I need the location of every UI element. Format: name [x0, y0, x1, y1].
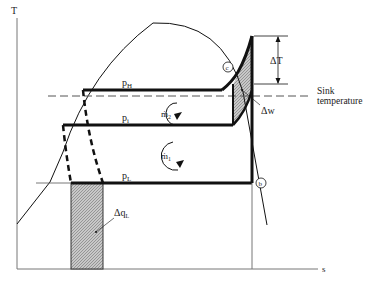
label-pl: pL: [122, 170, 131, 183]
sink-temperature-label-1: Sink: [317, 86, 335, 96]
delta-ql-area: [71, 183, 103, 269]
svg-text:b: b: [259, 180, 263, 188]
svg-text:Δw: Δw: [261, 105, 275, 116]
throttle-curve-2: [83, 90, 103, 183]
state-c-marker: c: [223, 62, 233, 72]
ts-diagram: T s pH pi pL ṁ2 ṁ1 c: [0, 0, 383, 284]
svg-text:ΔqL: ΔqL: [114, 207, 129, 219]
svg-text:c: c: [226, 64, 229, 72]
svg-text:ṁ2: ṁ2: [161, 109, 171, 120]
state-b-marker: b: [256, 178, 266, 188]
label-ph: pH: [122, 77, 132, 90]
label-pi: pi: [122, 112, 129, 125]
sink-temperature-label-2: temperature: [317, 96, 362, 106]
svg-text:ṁ1: ṁ1: [161, 151, 171, 162]
svg-text:ΔT: ΔT: [270, 55, 283, 66]
s-axis-label: s: [322, 264, 326, 274]
delta-t-bracket: ΔT: [254, 36, 288, 84]
flow-loop-m2: ṁ2: [161, 103, 182, 125]
t-axis-label: T: [11, 5, 17, 16]
flow-loop-m1: ṁ1: [161, 142, 184, 170]
